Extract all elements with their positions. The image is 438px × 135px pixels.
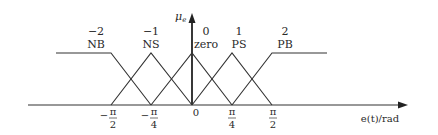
tick-sign: − xyxy=(141,110,149,121)
set-index-ps: 1 xyxy=(236,25,243,38)
origin-label: 0 xyxy=(193,107,199,118)
set-index-nb: −2 xyxy=(88,25,104,38)
tick-labels: − π 2 − π 4 0 π 4 π 2 xyxy=(100,106,277,130)
curve-pb xyxy=(232,53,327,105)
tick-numerator: π xyxy=(151,106,158,117)
set-name-ps: PS xyxy=(232,38,247,51)
tick-numerator: π xyxy=(229,106,236,117)
set-index-ns: −1 xyxy=(143,25,159,38)
y-axis-label: μe xyxy=(175,10,186,24)
membership-function-diagram: μe −2 NB −1 NS 0 zero 1 PS 2 PB − π 2 − … xyxy=(0,0,438,135)
tick-denominator: 4 xyxy=(229,119,235,130)
tick-sign: − xyxy=(100,110,108,121)
curve-nb xyxy=(56,53,151,105)
set-index-zero: 0 xyxy=(203,25,210,38)
y-axis xyxy=(189,13,196,105)
x-axis xyxy=(28,102,408,109)
set-index-pb: 2 xyxy=(282,25,289,38)
set-name-ns: NS xyxy=(142,38,159,51)
curve-ps xyxy=(192,53,272,105)
set-name-nb: NB xyxy=(87,38,105,51)
y-axis-arrow-icon xyxy=(189,13,196,23)
curve-ns xyxy=(111,53,192,105)
x-axis-arrow-icon xyxy=(398,102,408,109)
set-labels: −2 NB −1 NS 0 zero 1 PS 2 PB xyxy=(87,25,293,51)
set-name-zero: zero xyxy=(194,38,219,51)
x-axis-label: e(t)/rad xyxy=(361,113,400,124)
tick-denominator: 2 xyxy=(110,119,116,130)
tick-numerator: π xyxy=(110,106,117,117)
tick-numerator: π xyxy=(270,106,277,117)
tick-denominator: 4 xyxy=(151,119,157,130)
set-name-pb: PB xyxy=(277,38,293,51)
tick-denominator: 2 xyxy=(270,119,276,130)
